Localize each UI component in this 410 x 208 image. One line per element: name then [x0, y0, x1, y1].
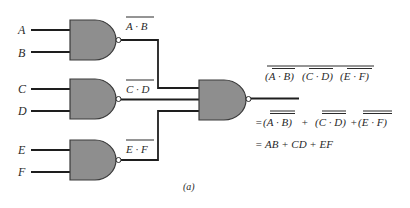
- inversion-bubble: [116, 97, 121, 102]
- nand-gate-2: [70, 79, 121, 119]
- gate2-output-label: C · D: [126, 80, 154, 95]
- gate1-output-label: A · B: [125, 17, 154, 32]
- gate2-output-text: C · D: [126, 83, 150, 95]
- logic-circuit-diagram: A B C D E F A · B C · D: [0, 0, 410, 208]
- expr2-term2: (C · D): [315, 116, 346, 129]
- expr2-term3: (E · F): [358, 116, 387, 129]
- expr1-term1: (A · B): [265, 70, 294, 83]
- expr1-term2: (C · D): [302, 70, 333, 83]
- expr2-equals: =: [255, 116, 262, 128]
- input-label-e: E: [17, 143, 26, 157]
- input-label-a: A: [17, 23, 26, 37]
- inversion-bubble: [246, 97, 251, 102]
- expr2-plus1: +: [301, 116, 308, 128]
- wire-nand1-out: [121, 40, 199, 88]
- expr1-term3: (E · F): [340, 70, 369, 83]
- intermediate-wires: [121, 40, 199, 160]
- input-label-c: C: [18, 82, 27, 96]
- expression-line-1: (A · B) (C · D) (E · F): [265, 66, 374, 83]
- expr2-term1: (A · B): [263, 116, 292, 129]
- nand-gate-3: [70, 140, 121, 180]
- expression-line-2: = (A · B) + (C · D) + (E · F): [255, 111, 392, 129]
- input-wires: [31, 30, 70, 172]
- input-label-f: F: [17, 165, 26, 179]
- nand-gate-1: [70, 20, 121, 60]
- figure-caption: (a): [183, 181, 195, 193]
- inversion-bubble: [116, 38, 121, 43]
- gate3-output-label: E · F: [125, 140, 154, 155]
- expr2-plus2: +: [350, 116, 357, 128]
- input-label-d: D: [17, 104, 27, 118]
- gate1-output-text: A · B: [125, 20, 148, 32]
- input-label-b: B: [18, 46, 26, 60]
- inversion-bubble: [116, 158, 121, 163]
- gate3-output-text: E · F: [125, 143, 148, 155]
- expression-line-3: = AB + CD + EF: [255, 138, 333, 150]
